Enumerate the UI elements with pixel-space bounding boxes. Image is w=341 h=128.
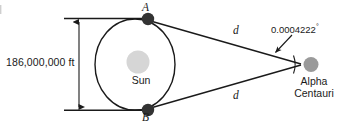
angle-leader-line (276, 35, 293, 53)
parallax-angle-arc (294, 56, 296, 74)
baseline-label: 186,000,000 ft (6, 57, 75, 69)
star-name-line-1: Alpha (288, 76, 340, 88)
point-a-label: A (142, 1, 149, 14)
sun-label: Sun (121, 75, 161, 87)
parallax-diagram: 186,000,000 ft A B Sun d d 0.0004222° Al… (0, 0, 341, 128)
edge-artifact (0, 5, 1, 14)
parallax-angle-label: 0.0004222° (271, 23, 319, 36)
sun-circle (127, 51, 150, 74)
distance-label-bottom: d (233, 89, 239, 102)
alpha-centauri-circle (304, 57, 319, 72)
distance-label-top: d (233, 24, 239, 37)
parallax-angle-value: 0.0004222 (271, 24, 316, 35)
point-b-label: B (142, 111, 149, 124)
degree-symbol: ° (316, 23, 319, 30)
alpha-centauri-label: Alpha Centauri (288, 76, 340, 100)
point-a-marker (142, 13, 154, 25)
star-name-line-2: Centauri (288, 88, 340, 100)
